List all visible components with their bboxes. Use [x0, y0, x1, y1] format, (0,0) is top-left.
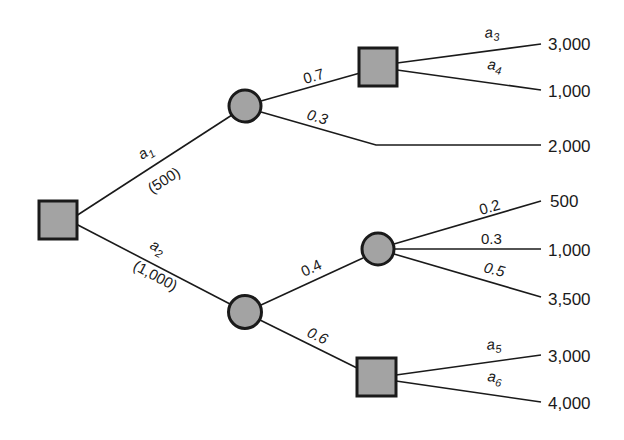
decision-node-bottom: [357, 358, 396, 396]
edges: [76, 44, 541, 402]
payoff-p03-top: 2,000: [548, 137, 591, 156]
label-p04: 0.4: [298, 255, 324, 279]
label-a5: a5: [486, 334, 503, 355]
edge-p02: [394, 201, 541, 244]
label-p05: 0.5: [482, 258, 507, 280]
label-a1: a1: [134, 140, 157, 165]
label-a4: a4: [486, 55, 503, 77]
edge-p06: [260, 320, 357, 368]
payoff-p02: 500: [550, 192, 578, 211]
label-p03-top: 0.3: [305, 106, 330, 128]
edge-a6: [396, 381, 541, 402]
label-p02: 0.2: [477, 196, 502, 218]
decision-tree-diagram: a1 (500) a2 (1,000) 0.7 0.3 a3 a4 0.4 0.…: [0, 0, 624, 440]
edge-a5: [396, 355, 541, 375]
chance-node-a2: [229, 296, 262, 329]
edge-p05: [394, 254, 541, 297]
chance-node-mid: [362, 233, 394, 265]
chance-node-a1: [229, 90, 261, 122]
edge-a3: [397, 44, 541, 63]
label-a3: a3: [484, 22, 501, 43]
edge-p03-top: [261, 112, 541, 145]
payoff-a3: 3,000: [548, 35, 591, 54]
nodes: [39, 48, 397, 396]
edge-a4: [397, 70, 541, 90]
label-a2: a2: [146, 236, 168, 260]
label-a2-cost: (1,000): [131, 257, 181, 294]
payoff-p05: 3,500: [548, 290, 591, 309]
payoff-a4: 1,000: [548, 82, 591, 101]
payoff-p03-mid: 1,000: [548, 241, 591, 260]
root-decision-node: [39, 201, 77, 239]
payoff-a6: 4,000: [548, 394, 591, 413]
label-a6: a6: [486, 367, 504, 389]
edge-a1: [76, 115, 232, 216]
payoff-a5: 3,000: [548, 347, 591, 366]
payoffs: 3,000 1,000 2,000 500 1,000 3,500 3,000 …: [548, 35, 591, 413]
decision-node-top: [359, 48, 397, 86]
label-p03-mid: 0.3: [481, 230, 502, 247]
